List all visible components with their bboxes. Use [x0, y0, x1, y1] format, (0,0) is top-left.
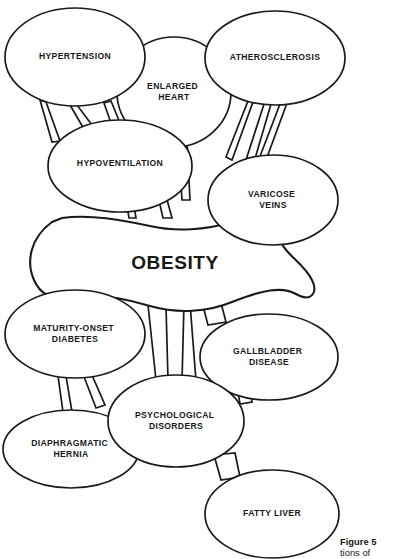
connector-hypertension-hypoventilation-1 [40, 100, 60, 142]
node-hypoventilation-label: HYPOVENTILATION [77, 158, 163, 168]
connector-obesity-psychological-2 [182, 303, 196, 381]
node-maturity-onset-diabetes[interactable]: MATURITY-ONSET DIABETES [5, 290, 145, 378]
node-psychological-disorders[interactable]: PSYCHOLOGICAL DISORDERS [108, 375, 244, 467]
node-hypertension[interactable]: HYPERTENSION [5, 8, 145, 106]
node-hypertension-label: HYPERTENSION [39, 51, 111, 61]
figure-caption-text: tions of [340, 547, 398, 559]
node-varicose-veins[interactable]: VARICOSE VEINS [208, 155, 338, 245]
central-node-obesity-label: OBESITY [131, 252, 219, 273]
node-atherosclerosis[interactable]: ATHEROSCLEROSIS [205, 11, 345, 105]
connector-obesity-psychological-1 [148, 305, 168, 380]
figure-canvas: ENLARGED HEART HYPERTENSION ATHEROSCLERO… [0, 0, 398, 559]
obesity-complications-diagram: ENLARGED HEART HYPERTENSION ATHEROSCLERO… [0, 0, 398, 559]
node-fatty-liver-label: FATTY LIVER [243, 508, 301, 518]
node-fatty-liver[interactable]: FATTY LIVER [205, 470, 339, 558]
figure-caption: Figure 5 tions of [340, 536, 398, 559]
node-hypoventilation[interactable]: HYPOVENTILATION [48, 120, 192, 212]
figure-caption-number: Figure 5 [340, 536, 398, 548]
node-atherosclerosis-label: ATHEROSCLEROSIS [230, 52, 321, 62]
connector-diabetes-diaphragmatic-1 [58, 376, 72, 412]
